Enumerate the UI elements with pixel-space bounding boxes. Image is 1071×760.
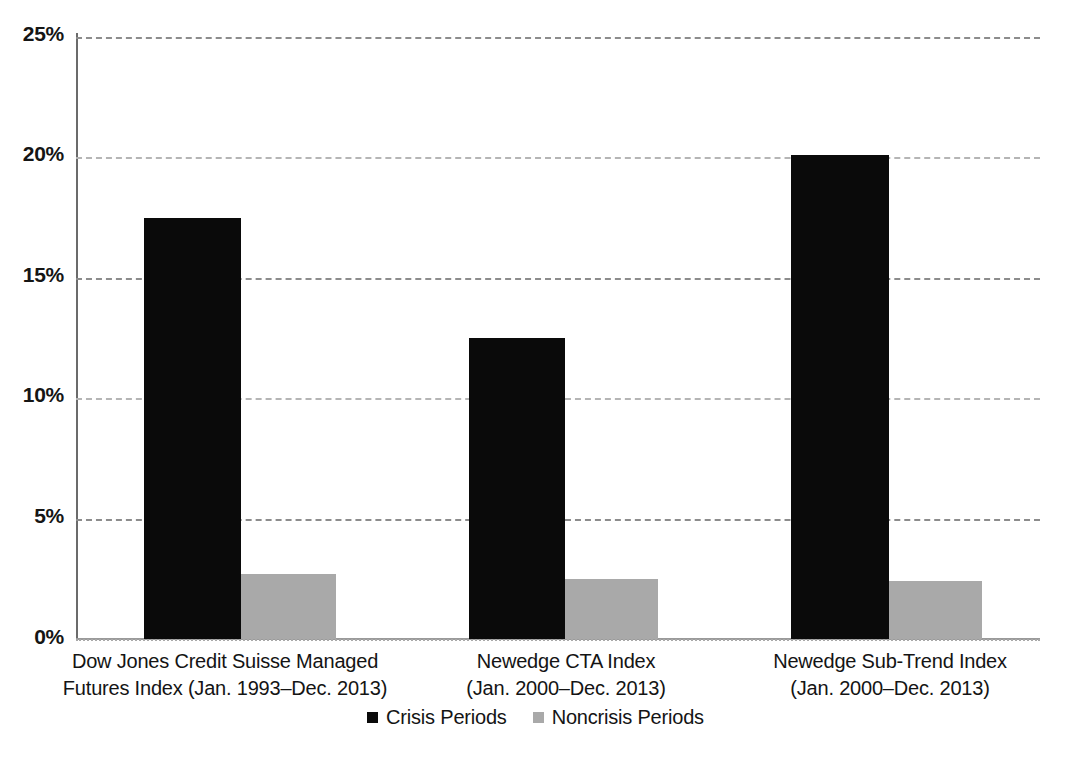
- gridline-25: [76, 37, 1040, 39]
- y-axis-tick-5: 5%: [0, 504, 64, 528]
- bar-noncrisis-2: [889, 581, 982, 639]
- bar-noncrisis-1: [565, 579, 658, 639]
- chart-legend: Crisis Periods Noncrisis Periods: [0, 706, 1071, 729]
- bar-crisis-0: [144, 218, 241, 639]
- y-axis-tick-25: 25%: [0, 22, 64, 46]
- plot-area: [76, 37, 1040, 639]
- y-axis-tick-15: 15%: [0, 263, 64, 287]
- gridline-20: [76, 157, 1040, 159]
- bar-crisis-2: [791, 155, 889, 639]
- x-axis-label-1-line2: (Jan. 2000–Dec. 2013): [406, 675, 726, 702]
- x-axis-label-2-line1: Newedge Sub-Trend Index: [730, 648, 1050, 675]
- x-axis-label-0-line2: Futures Index (Jan. 1993–Dec. 2013): [50, 675, 400, 702]
- legend-swatch-crisis-icon: [367, 712, 378, 723]
- bar-noncrisis-0: [241, 574, 336, 639]
- x-axis-label-1: Newedge CTA Index (Jan. 2000–Dec. 2013): [406, 648, 726, 702]
- bar-crisis-1: [469, 338, 565, 639]
- x-axis-label-2: Newedge Sub-Trend Index (Jan. 2000–Dec. …: [730, 648, 1050, 702]
- x-axis-label-0: Dow Jones Credit Suisse Managed Futures …: [50, 648, 400, 702]
- x-axis-label-2-line2: (Jan. 2000–Dec. 2013): [730, 675, 1050, 702]
- legend-swatch-noncrisis-icon: [533, 712, 544, 723]
- y-axis-tick-20: 20%: [0, 142, 64, 166]
- bar-chart: 25% 20% 15% 10% 5% 0% Dow Jones Credit S…: [0, 0, 1071, 760]
- legend-label-noncrisis: Noncrisis Periods: [552, 706, 704, 729]
- y-axis-tick-0: 0%: [0, 625, 64, 649]
- x-axis-label-0-line1: Dow Jones Credit Suisse Managed: [50, 648, 400, 675]
- legend-label-crisis: Crisis Periods: [386, 706, 507, 729]
- x-axis-label-1-line1: Newedge CTA Index: [406, 648, 726, 675]
- legend-item-crisis: Crisis Periods: [367, 706, 507, 729]
- legend-item-noncrisis: Noncrisis Periods: [533, 706, 704, 729]
- y-axis-tick-10: 10%: [0, 383, 64, 407]
- gridline-0: [76, 639, 1040, 641]
